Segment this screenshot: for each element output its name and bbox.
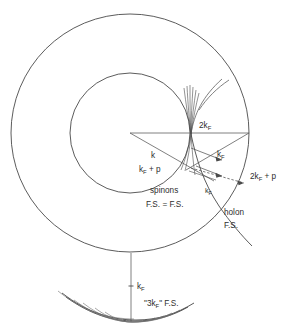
label-kf-upper-right: kF	[217, 150, 225, 160]
svg-text:2kF: 2kF	[199, 121, 212, 131]
label-kf-plus-p: kF + p	[139, 165, 161, 175]
label-spinons-line1: spinons	[150, 186, 178, 195]
label-two-kf: 2kF	[199, 121, 212, 131]
figure-root: 2kF kF 2kF + p k kF + p kF	[0, 0, 291, 329]
label-holon-line1: holon	[224, 208, 244, 217]
label-three-kf-fs: "3kF" F.S.	[144, 299, 178, 309]
label-k-vector: k	[151, 151, 156, 160]
label-kf-bottom: kF	[137, 282, 145, 292]
svg-text:"3kF" F.S.: "3kF" F.S.	[144, 299, 178, 309]
label-two-kf-plus-p: 2kF + p	[250, 172, 277, 182]
label-two-kf-plus-p-tail: + p	[262, 172, 276, 181]
label-kf-upper-sub: F	[221, 154, 225, 160]
label-k-vector-text: k	[151, 151, 156, 160]
label-kf-bottom-sub: F	[141, 286, 145, 292]
svg-text:kF: kF	[217, 150, 225, 160]
label-two-kf-sub: F	[208, 125, 212, 131]
label-spinons: spinons F.S. = F.S.	[146, 186, 184, 209]
svg-text:kF: kF	[205, 186, 212, 196]
label-spinons-line2: F.S. = F.S.	[146, 200, 184, 209]
label-kf-lower-sub: F	[209, 190, 212, 196]
svg-text:kF: kF	[137, 282, 145, 292]
label-holon: holon F.S.	[224, 208, 244, 230]
svg-text:kF + p: kF + p	[139, 165, 161, 175]
svg-text:2kF + p: 2kF + p	[250, 172, 277, 182]
label-three-kf-tail: " F.S.	[159, 299, 178, 308]
label-kf-plus-p-tail: + p	[147, 165, 161, 174]
label-kf-lower: kF	[205, 186, 212, 196]
label-holon-line2: F.S.	[224, 221, 238, 230]
fermi-surface-diagram: 2kF kF 2kF + p k kF + p kF	[0, 0, 291, 329]
